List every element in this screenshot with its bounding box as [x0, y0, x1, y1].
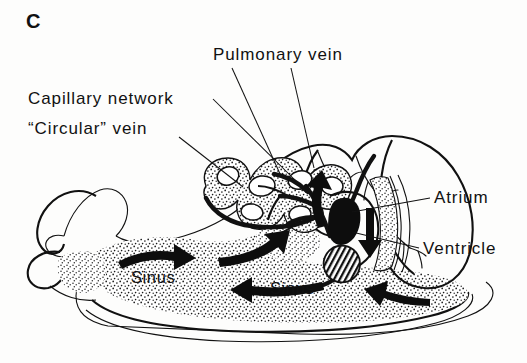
ventricle-chamber	[324, 246, 360, 283]
label-pulmonary-vein: Pulmonary vein	[213, 45, 343, 64]
panel-label: C	[26, 10, 40, 32]
haemocoel-sinus-region	[58, 218, 468, 323]
figure-panel-c: C Capillary network “Circular” vein Pulm…	[0, 0, 527, 363]
label-ventricle: Ventricle	[423, 239, 496, 258]
pulmonary-vein-leader	[232, 68, 281, 176]
label-circular-vein: “Circular” vein	[28, 119, 147, 138]
atrium-chamber	[328, 198, 360, 245]
label-sinus-left: Sinus	[131, 268, 175, 286]
label-atrium: Atrium	[434, 188, 489, 207]
label-capillary-network: Capillary network	[28, 89, 174, 108]
snail-circulation-diagram: C Capillary network “Circular” vein Pulm…	[0, 0, 527, 363]
label-sinus-right: Sinus	[270, 279, 314, 297]
